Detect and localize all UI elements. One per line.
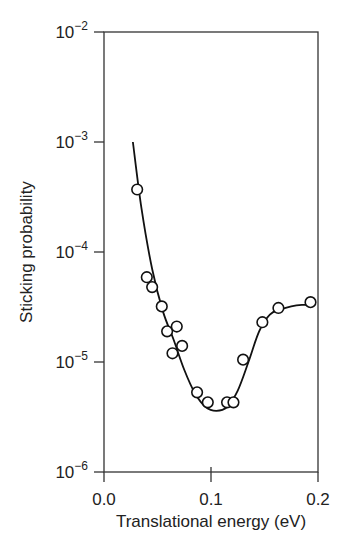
data-point	[177, 341, 188, 352]
data-point	[273, 303, 284, 314]
data-point	[147, 282, 158, 293]
y-tick-label: 10−5	[55, 349, 88, 372]
data-points	[132, 184, 316, 407]
x-tick-label: 0.0	[92, 490, 116, 509]
data-point	[171, 321, 182, 332]
chart: 10−210−310−410−510−6 0.00.10.2 Translati…	[0, 0, 345, 560]
y-axis-title: Sticking probability	[17, 181, 36, 323]
data-point	[156, 301, 167, 312]
y-tick-label: 10−3	[55, 129, 88, 152]
data-point	[167, 348, 178, 359]
data-point	[132, 184, 143, 195]
x-tick-label: 0.2	[306, 490, 330, 509]
y-tick-label: 10−6	[55, 459, 88, 482]
data-point	[228, 397, 239, 408]
x-tick-label: 0.1	[199, 490, 223, 509]
fit-curve	[133, 142, 313, 411]
y-tick-label: 10−2	[55, 19, 88, 42]
data-point	[142, 272, 153, 283]
x-axis: 0.00.10.2	[92, 467, 330, 509]
y-axis: 10−210−310−410−510−6	[55, 19, 104, 482]
y-tick-label: 10−4	[55, 239, 88, 262]
data-point	[238, 354, 249, 365]
data-point	[192, 387, 203, 398]
data-point	[257, 317, 268, 328]
data-point	[305, 297, 316, 308]
fit-line	[133, 142, 313, 411]
data-point	[202, 397, 213, 408]
x-axis-title: Translational energy (eV)	[116, 512, 306, 531]
